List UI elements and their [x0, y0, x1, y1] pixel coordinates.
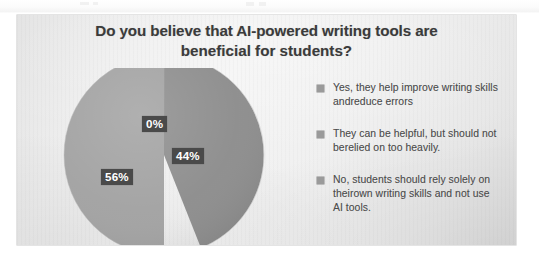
legend-item-label-line-1: No, students should rely solely on	[333, 173, 516, 187]
pie-label-44-percent: 44%	[172, 148, 204, 164]
scan-artifact-strip	[0, 0, 539, 13]
legend-marker-icon	[317, 131, 324, 138]
chart-title-line-2: beneficial for students?	[17, 41, 516, 61]
pie-plot-area: 0% 44% 56%	[17, 68, 317, 245]
scan-speck	[259, 2, 266, 6]
scan-speck	[246, 2, 254, 6]
legend-item-label-line-2: theirown writing skills and not use	[333, 187, 516, 201]
chart-panel: Do you believe that AI-powered writing t…	[17, 15, 516, 245]
legend-item-yes[interactable]: Yes, they help improve writing skills an…	[317, 81, 516, 108]
pie-label-56-percent: 56%	[101, 169, 133, 185]
pie-label-0-percent: 0%	[142, 116, 167, 132]
legend-item-label-line-2: andreduce errors	[333, 95, 516, 109]
legend-item-label-line-1: They can be helpful, but should not	[333, 127, 516, 141]
legend-item-label-line-3: AI tools.	[333, 201, 516, 215]
pie-shading-overlay	[64, 68, 264, 245]
legend-marker-icon	[317, 85, 324, 92]
scan-speck	[93, 2, 98, 5]
scan-speck	[80, 2, 89, 5]
legend-item-helpful[interactable]: They can be helpful, but should not bere…	[317, 127, 516, 154]
legend-item-label-line-2: berelied on too heavily.	[333, 141, 516, 155]
chart-title: Do you believe that AI-powered writing t…	[17, 21, 516, 61]
legend-item-label-line-1: Yes, they help improve writing skills	[333, 81, 516, 95]
pie-chart-svg	[17, 68, 317, 245]
chart-title-line-1: Do you believe that AI-powered writing t…	[17, 21, 516, 41]
legend-item-no[interactable]: No, students should rely solely on their…	[317, 173, 516, 214]
legend-marker-icon	[317, 177, 324, 184]
chart-legend: Yes, they help improve writing skills an…	[317, 81, 516, 233]
